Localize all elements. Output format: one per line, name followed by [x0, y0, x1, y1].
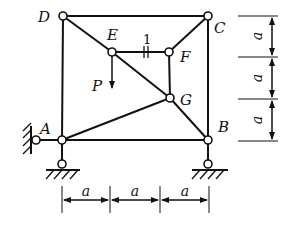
- dim-vertical-3: a: [249, 116, 265, 124]
- member-label: 1: [143, 32, 151, 47]
- supports: [23, 123, 228, 179]
- member-AG: [62, 98, 170, 140]
- node-label-F: F: [179, 48, 191, 66]
- dim-vertical-2: a: [249, 74, 265, 82]
- node-label-A: A: [38, 120, 51, 138]
- dim-horizontal-3: a: [181, 183, 189, 199]
- joint-E: [108, 48, 116, 56]
- pin-B-ground: [204, 160, 212, 168]
- member-DA: [62, 16, 63, 140]
- wall-hatch-icon: [23, 123, 31, 154]
- pin-A-wall: [32, 136, 40, 144]
- truss-members: [62, 16, 208, 140]
- dim-horizontal-1: a: [82, 183, 90, 199]
- joint-D: [59, 12, 67, 20]
- pin-A-ground: [58, 160, 66, 168]
- ground-hatch-A-icon: [46, 170, 78, 179]
- node-label-D: D: [37, 8, 50, 26]
- truss-svg: 1 P: [0, 0, 295, 235]
- dim-vertical-1: a: [249, 32, 265, 40]
- node-label-B: B: [217, 118, 229, 136]
- joint-F: [165, 48, 173, 56]
- node-label-G: G: [180, 91, 192, 109]
- load-label: P: [91, 77, 103, 95]
- member-EG: [112, 52, 170, 98]
- member-FC: [169, 16, 208, 52]
- joints: [32, 12, 212, 168]
- joint-B: [204, 136, 212, 144]
- joint-G: [166, 94, 174, 102]
- ground-hatch-B-icon: [192, 170, 224, 179]
- node-label-C: C: [214, 19, 226, 37]
- joint-C: [204, 12, 212, 20]
- node-label-E: E: [106, 26, 118, 44]
- member-DE: [63, 16, 112, 52]
- truss-diagram: 1 P: [0, 0, 295, 235]
- joint-A: [58, 136, 66, 144]
- member-FG: [169, 52, 170, 98]
- dim-horizontal-2: a: [131, 183, 139, 199]
